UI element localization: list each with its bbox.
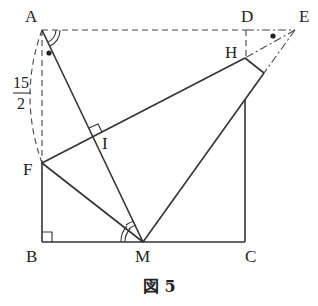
angle-dot-A <box>46 50 51 55</box>
angle-arc-A-outer <box>50 30 60 46</box>
angle-arc-M-4 <box>126 221 134 225</box>
segment-FH <box>42 58 245 163</box>
segment-EG <box>264 30 295 73</box>
figure-caption: 図 5 <box>143 277 176 296</box>
angle-arc-M-3 <box>129 225 136 229</box>
angle-dot-E <box>270 33 275 38</box>
label-D: D <box>241 7 253 26</box>
label-A: A <box>25 7 38 26</box>
label-M: M <box>135 247 150 266</box>
label-C: C <box>245 247 256 266</box>
fraction-denominator: 2 <box>17 95 25 112</box>
label-I: I <box>102 134 108 153</box>
label-H: H <box>225 43 237 62</box>
segment-EH <box>245 30 295 58</box>
label-F: F <box>23 160 32 179</box>
segment-GM <box>143 73 264 242</box>
segment-HG <box>245 58 264 73</box>
label-B: B <box>26 247 37 266</box>
label-E: E <box>299 7 309 26</box>
geometry-figure: A D E H I F B M C 15 2 図 5 <box>0 0 318 306</box>
fraction-numerator: 15 <box>13 74 29 91</box>
segment-FM <box>42 163 143 242</box>
right-angle-mark-I <box>89 124 102 132</box>
right-angle-mark-B <box>42 232 52 242</box>
length-arc-AF <box>30 30 42 163</box>
angle-arc-A-inner <box>48 30 56 42</box>
